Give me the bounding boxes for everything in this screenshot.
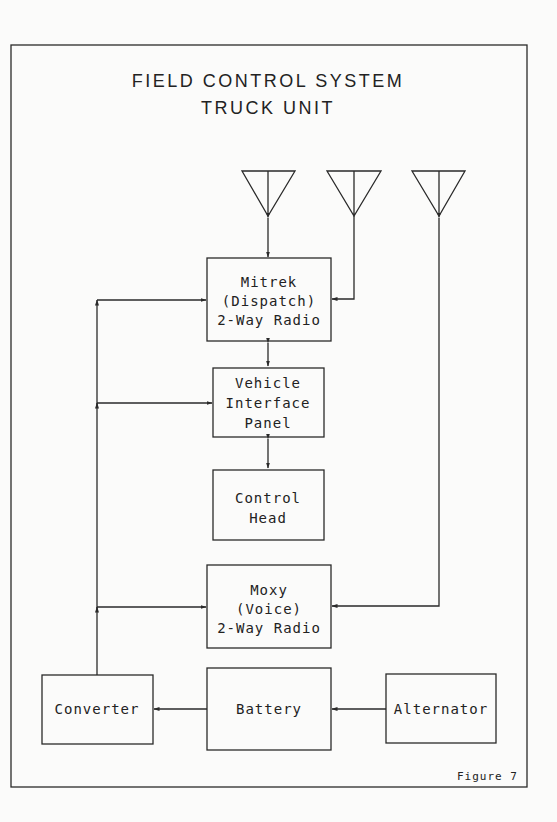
mitrek-radio-block: Mitrek (Dispatch) 2-Way Radio: [207, 258, 331, 341]
battery-block: Battery: [207, 668, 331, 750]
converter-block: Converter: [42, 675, 153, 744]
svg-text:Head: Head: [249, 510, 287, 526]
svg-text:Vehicle: Vehicle: [235, 375, 301, 391]
svg-text:Control: Control: [235, 490, 301, 506]
svg-text:2-Way Radio: 2-Way Radio: [217, 312, 321, 328]
block-diagram: FIELD CONTROL SYSTEM TRUCK UNIT Mitrek (…: [0, 0, 557, 822]
svg-text:Alternator: Alternator: [394, 701, 488, 717]
antenna-icon: [412, 171, 465, 216]
alternator-block: Alternator: [386, 674, 496, 743]
figure-label: Figure 7: [457, 770, 518, 783]
antenna-icon: [327, 171, 381, 216]
svg-text:Mitrek: Mitrek: [241, 274, 298, 290]
svg-text:Interface: Interface: [226, 395, 311, 411]
svg-text:(Voice): (Voice): [236, 601, 302, 617]
antenna-icon: [242, 171, 295, 216]
svg-text:2-Way Radio: 2-Way Radio: [217, 620, 321, 636]
antenna-3-link: [332, 218, 439, 606]
svg-text:Converter: Converter: [55, 701, 140, 717]
svg-text:Moxy: Moxy: [250, 582, 288, 598]
svg-text:(Dispatch): (Dispatch): [222, 293, 316, 309]
svg-text:Battery: Battery: [236, 701, 302, 717]
moxy-radio-block: Moxy (Voice) 2-Way Radio: [207, 565, 331, 648]
title-line-2: TRUCK UNIT: [201, 98, 335, 118]
vehicle-interface-panel-block: Vehicle Interface Panel: [213, 368, 324, 437]
control-head-block: Control Head: [213, 470, 324, 540]
svg-text:Panel: Panel: [244, 415, 291, 431]
title-line-1: FIELD CONTROL SYSTEM: [132, 71, 404, 91]
antenna-2-link: [332, 216, 354, 299]
